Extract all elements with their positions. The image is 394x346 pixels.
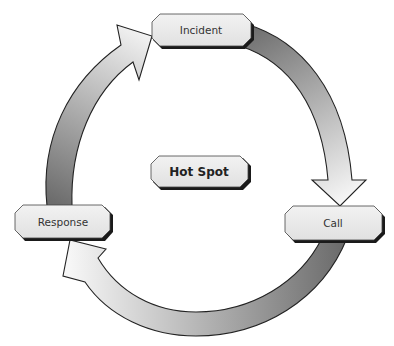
arrow-shape bbox=[46, 25, 152, 206]
arrow-incident-to-call bbox=[240, 24, 366, 206]
center-label-hot-spot: Hot Spot bbox=[169, 165, 229, 179]
node-label-call: Call bbox=[323, 217, 343, 229]
node-call: Call bbox=[285, 206, 385, 243]
center-node-hot-spot: Hot Spot bbox=[151, 156, 251, 190]
arrow-response-to-incident bbox=[46, 25, 152, 206]
arrow-shape bbox=[240, 24, 366, 206]
arrow-shape bbox=[63, 238, 347, 336]
node-label-response: Response bbox=[38, 216, 88, 228]
arrow-call-to-response bbox=[63, 238, 347, 336]
hot-spot-cycle-diagram: Incident Call Response Hot Spot bbox=[0, 0, 394, 346]
node-incident: Incident bbox=[152, 14, 254, 49]
node-response: Response bbox=[15, 205, 113, 241]
node-label-incident: Incident bbox=[180, 24, 222, 36]
